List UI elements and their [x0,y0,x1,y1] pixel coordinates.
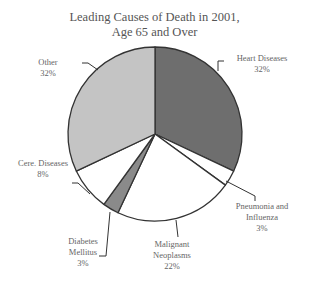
label-malignant-neoplasms: Malignant Neoplasms 22% [142,239,202,272]
label-heart-diseases: Heart Diseases 32% [222,53,302,75]
label-text: Malignant [142,239,202,250]
label-pct: 32% [222,64,302,75]
leader-malignant-line [176,220,178,237]
label-pct: 8% [8,169,78,180]
label-text: Cere. Diseases [8,158,78,169]
label-text: Other [18,57,78,68]
label-pct: 3% [222,223,302,234]
label-text: Influenza [222,212,302,223]
label-cere-diseases: Cere. Diseases 8% [8,158,78,180]
label-pct: 3% [58,258,108,269]
label-pneumonia-influenza: Pneumonia and Influenza 3% [222,201,302,234]
leader-other-line [82,63,98,70]
label-text: Mellitus [58,247,108,258]
label-text: Heart Diseases [222,53,302,64]
label-text: Diabetes [58,236,108,247]
label-pct: 32% [18,68,78,79]
label-other: Other 32% [18,57,78,79]
label-diabetes-mellitus: Diabetes Mellitus 3% [58,236,108,269]
leader-pneumonia-line [226,181,255,201]
label-text: Neoplasms [142,250,202,261]
label-text: Pneumonia and [222,201,302,212]
label-pct: 22% [142,261,202,272]
